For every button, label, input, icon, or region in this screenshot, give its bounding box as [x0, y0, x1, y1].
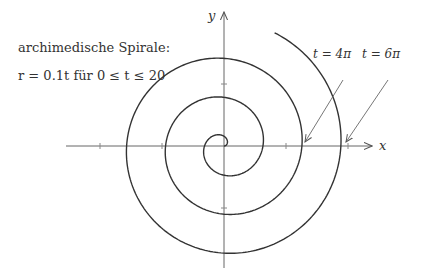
spiral-curve: [126, 33, 341, 254]
y-axis-label: y: [207, 8, 216, 23]
formula-label: r = 0.1t für 0 ≤ t ≤ 20: [18, 68, 165, 83]
annotation-t6pi: t = 6π: [362, 47, 401, 61]
x-axis-label: x: [379, 138, 387, 153]
arrow-t6pi: [346, 80, 388, 142]
spiral-diagram: archimedische Spirale: r = 0.1t für 0 ≤ …: [0, 0, 431, 277]
annotation-t4pi: t = 4π: [313, 47, 352, 61]
diagram-title: archimedische Spirale:: [18, 40, 170, 55]
